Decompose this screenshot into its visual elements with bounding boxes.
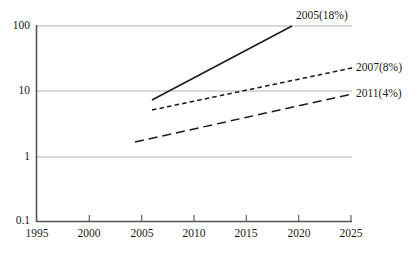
- x-tick-label-1995: 1995: [14, 228, 60, 240]
- x-tick-label-2015: 2015: [223, 228, 269, 240]
- x-axis-ticks: [89, 215, 351, 221]
- x-tick-label-2025: 2025: [328, 228, 374, 240]
- series-label-2007: 2007(8%): [356, 62, 402, 74]
- series-line-2005: [152, 26, 292, 100]
- x-tick-label-2010: 2010: [171, 228, 217, 240]
- chart-container: 100 10 1 0.1 1995 2000 2005 2010 2015 20…: [0, 0, 419, 260]
- series-line-2007: [152, 68, 352, 110]
- y-tick-label-100: 100: [2, 20, 30, 32]
- y-tick-label-1: 1: [2, 151, 30, 163]
- x-tick-label-2005: 2005: [119, 228, 165, 240]
- series-label-2011: 2011(4%): [356, 88, 402, 100]
- y-tick-label-10: 10: [2, 85, 30, 97]
- y-tick-label-0.1: 0.1: [2, 215, 30, 227]
- x-tick-label-2020: 2020: [276, 228, 322, 240]
- series-label-2005: 2005(18%): [296, 10, 348, 22]
- x-tick-label-2000: 2000: [66, 228, 112, 240]
- chart-plot-area: [0, 0, 419, 260]
- series-line-2011: [135, 94, 352, 142]
